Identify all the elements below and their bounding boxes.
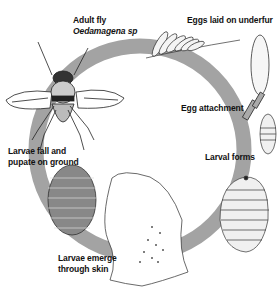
label-line: Larvae emerge [58,253,117,264]
label-line: Larvae fall and [8,146,79,157]
label-line: Adult fly [73,15,137,26]
label-eggs: Eggs laid on underfur [187,15,273,26]
label-line: pupate on ground [8,157,79,168]
egg-attachment-illustration [242,35,269,120]
pupa-illustration [48,165,96,235]
label-larvae-emerge: Larvae emerge through skin [58,253,117,275]
label-larvae-pupate: Larvae fall and pupate on ground [8,146,79,168]
label-egg-attachment: Egg attachment [181,103,243,114]
skin-illustration [105,173,188,286]
label-larval-forms: Larval forms [205,152,255,163]
diagram-artwork [0,0,280,288]
life-cycle-diagram: Adult fly Oedamagena sp Eggs laid on und… [0,0,280,288]
label-adult-fly: Adult fly Oedamagena sp [73,15,137,37]
species-name: Oedamagena sp [73,26,137,37]
label-line: through skin [58,264,117,275]
